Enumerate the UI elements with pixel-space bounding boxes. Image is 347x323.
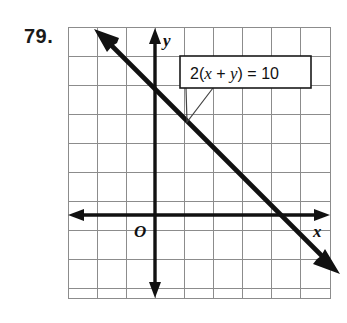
equation-var-y: y <box>228 64 238 83</box>
equation-coefficient: 2( <box>190 65 205 82</box>
origin-label: O <box>134 222 146 241</box>
equation-close-equals: ) = 10 <box>238 65 279 82</box>
equation-operator: + <box>212 65 230 82</box>
graph-figure: 79. <box>0 0 347 323</box>
coordinate-plane-graphic: 2(x + y) = 10 y x O <box>0 0 347 323</box>
x-axis-label: x <box>312 222 322 241</box>
y-axis-label: y <box>161 31 171 50</box>
equation-label: 2(x + y) = 10 <box>190 64 279 83</box>
